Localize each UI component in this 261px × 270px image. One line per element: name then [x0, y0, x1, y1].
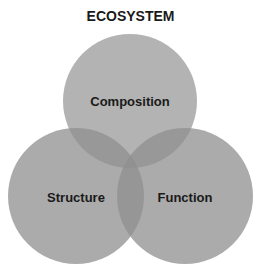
- label-function: Function: [158, 190, 213, 205]
- venn-diagram: Composition Structure Function: [0, 0, 261, 270]
- label-composition: Composition: [90, 94, 169, 109]
- label-structure: Structure: [47, 190, 105, 205]
